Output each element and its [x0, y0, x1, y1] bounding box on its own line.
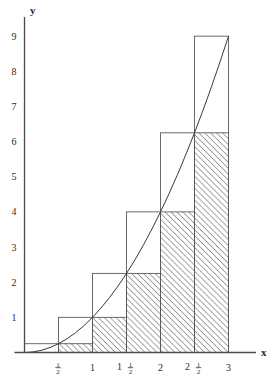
- y-tick-label: 8: [12, 66, 17, 77]
- y-tick-label: 2: [12, 277, 17, 288]
- y-tick-labels: 123456789: [12, 31, 17, 323]
- riemann-sum-figure: 12111222123 123456789 y x: [0, 0, 276, 387]
- y-tick-label: 9: [12, 31, 17, 42]
- y-tick-label: 4: [12, 206, 17, 217]
- lower-sum-bar: [127, 273, 161, 352]
- tick-whole: 2: [185, 361, 190, 372]
- tick-whole: 2: [158, 362, 163, 373]
- y-tick-label: 3: [12, 242, 17, 253]
- y-tick-label: 1: [12, 312, 17, 323]
- x-tick-label: 2: [158, 362, 163, 373]
- y-axis-label: y: [30, 4, 36, 16]
- y-tick-label: 7: [12, 101, 17, 112]
- tick-whole: 3: [226, 362, 231, 373]
- x-tick-label: 1: [90, 362, 95, 373]
- tick-whole: 1: [90, 362, 95, 373]
- x-tick-label: 212: [185, 361, 201, 377]
- x-axis-label: x: [261, 346, 267, 358]
- tick-denominator: 2: [129, 368, 133, 376]
- lower-sum-bar: [161, 212, 195, 353]
- tick-denominator: 2: [56, 368, 60, 376]
- x-tick-labels: 12111222123: [55, 361, 231, 377]
- lower-sum-bar: [59, 344, 93, 353]
- y-tick-label: 5: [12, 171, 17, 182]
- lower-sum-bar: [195, 133, 229, 353]
- tick-denominator: 2: [197, 368, 201, 376]
- tick-whole: 1: [117, 361, 122, 372]
- x-tick-label: 12: [55, 361, 60, 377]
- x-tick-label: 3: [226, 362, 231, 373]
- upper-sum-bar: [25, 344, 59, 353]
- x-tick-label: 112: [117, 361, 133, 377]
- lower-sum-bar: [93, 317, 127, 352]
- y-tick-label: 6: [12, 136, 17, 147]
- chart-canvas: 12111222123 123456789 y x: [0, 0, 276, 387]
- lower-sum-bars: [59, 133, 229, 353]
